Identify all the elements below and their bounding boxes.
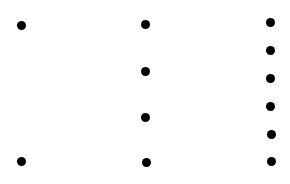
dot bbox=[266, 46, 275, 55]
dot bbox=[141, 67, 150, 76]
dot bbox=[266, 102, 275, 111]
dot bbox=[266, 74, 275, 83]
dot-diagram bbox=[0, 0, 290, 184]
dot bbox=[17, 21, 26, 30]
dot bbox=[142, 158, 151, 167]
dot bbox=[141, 20, 150, 29]
dot bbox=[267, 130, 276, 139]
dot bbox=[17, 157, 26, 166]
dot bbox=[267, 157, 276, 166]
dot bbox=[266, 18, 275, 27]
dot bbox=[141, 113, 150, 122]
